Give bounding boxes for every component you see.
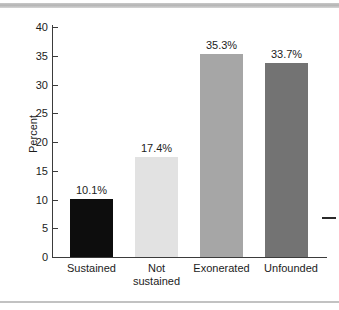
plot-area: Percent 40 35 30 25 20 15 10 5 0 10.1% 1… (0, 0, 339, 310)
y-tick-label-15: 15 (8, 166, 48, 177)
x-category-label-exonerated: Exonerated (185, 262, 258, 275)
x-category-line-2: sustained (133, 275, 180, 287)
x-axis-line (52, 257, 327, 258)
x-category-label-unfounded: Unfounded (256, 262, 326, 275)
x-category-label-not-sustained: Not sustained (122, 262, 191, 288)
y-tick-label-5: 5 (8, 223, 48, 234)
y-tick-label-20: 20 (8, 137, 48, 148)
bar-value-unfounded: 33.7% (255, 48, 318, 60)
y-tick-label-35: 35 (8, 51, 48, 62)
bar-value-sustained: 10.1% (60, 184, 123, 196)
y-tick-20 (53, 142, 58, 143)
x-category-line-1: Unfounded (264, 262, 318, 274)
bar-sustained (70, 199, 113, 257)
x-category-line-1: Not (148, 262, 165, 274)
x-category-line-1: Exonerated (193, 262, 249, 274)
y-tick-0 (53, 257, 58, 258)
y-tick-25 (53, 113, 58, 114)
y-tick-label-25: 25 (8, 108, 48, 119)
y-tick-label-0: 0 (8, 252, 48, 263)
y-tick-label-40: 40 (8, 22, 48, 33)
y-tick-40 (53, 27, 58, 28)
y-tick-label-30: 30 (8, 80, 48, 91)
bar-unfounded (265, 63, 308, 257)
bar-exonerated (200, 54, 243, 257)
y-tick-30 (53, 85, 58, 86)
y-tick-label-10: 10 (8, 195, 48, 206)
bar-not-sustained (135, 157, 178, 257)
y-tick-15 (53, 171, 58, 172)
y-tick-35 (53, 56, 58, 57)
bar-value-exonerated: 35.3% (190, 39, 253, 51)
x-category-label-sustained: Sustained (57, 262, 126, 275)
y-tick-10 (53, 200, 58, 201)
x-category-line-1: Sustained (67, 262, 116, 274)
right-edge-mark (322, 217, 336, 219)
bar-value-not-sustained: 17.4% (125, 142, 188, 154)
y-tick-5 (53, 228, 58, 229)
bar-chart-figure: Percent 40 35 30 25 20 15 10 5 0 10.1% 1… (0, 0, 339, 310)
